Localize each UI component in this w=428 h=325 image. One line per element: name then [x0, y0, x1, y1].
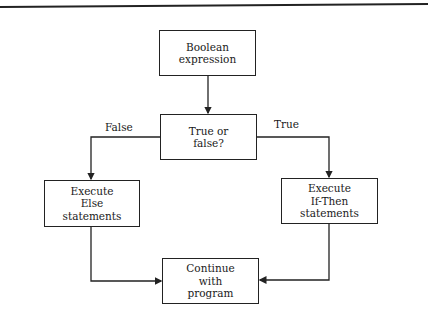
else-statements-label: Execute Else statements: [63, 185, 122, 223]
boolean-expression-box: Boolean expression: [159, 30, 256, 76]
arrow-decision-to-else: [91, 137, 160, 179]
if-then-statements-label: Execute If-Then statements: [300, 182, 359, 220]
continue-program-box: Continue with program: [162, 258, 259, 304]
false-edge-label: False: [105, 121, 133, 133]
boolean-expression-label: Boolean expression: [179, 41, 236, 66]
decision-box: True or false?: [160, 114, 257, 160]
arrow-then-to-continue: [260, 224, 329, 280]
arrow-decision-to-then: [257, 137, 329, 177]
if-then-statements-box: Execute If-Then statements: [281, 178, 378, 224]
decision-label: True or false?: [189, 125, 229, 150]
true-edge-label: True: [274, 118, 299, 130]
continue-program-label: Continue with program: [186, 262, 234, 300]
else-statements-box: Execute Else statements: [44, 180, 140, 227]
arrow-else-to-continue: [91, 227, 161, 281]
